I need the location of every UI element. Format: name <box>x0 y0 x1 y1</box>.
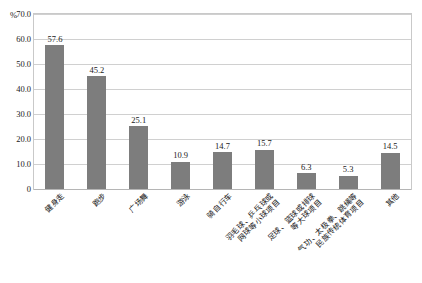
bar-group: 57.6 <box>34 14 76 189</box>
bar-value-label: 10.9 <box>173 150 188 160</box>
bar-value-label: 57.6 <box>48 34 63 44</box>
x-axis-category-label: 骑自行车 <box>205 191 234 220</box>
bar-value-label: 14.5 <box>383 141 398 151</box>
x-axis-category-label-line: 健身走 <box>43 191 67 215</box>
x-axis-category-label: 健身走 <box>43 191 67 215</box>
y-tick-label: 60.0 <box>0 34 31 44</box>
x-axis-category-label-line: 游泳 <box>174 191 192 209</box>
x-axis-category-label-line: 其他 <box>384 191 402 209</box>
bar[interactable] <box>381 153 400 189</box>
y-tick-label: 20.0 <box>0 134 31 144</box>
bar-group: 14.7 <box>202 14 244 189</box>
bar-value-label: 15.7 <box>257 138 272 148</box>
bar[interactable] <box>171 162 190 189</box>
x-axis-category-label-line: 骑自行车 <box>205 191 234 220</box>
x-axis-category-label-line: 广场舞 <box>127 191 151 215</box>
bar-group: 45.2 <box>76 14 118 189</box>
y-tick-label: 50.0 <box>0 59 31 69</box>
x-axis-category-label: 游泳 <box>174 191 192 209</box>
bar-value-label: 25.1 <box>131 115 146 125</box>
bar-group: 14.5 <box>369 14 411 189</box>
x-axis-category-label: 其他 <box>384 191 402 209</box>
bar-value-label: 5.3 <box>343 164 354 174</box>
bar-group: 6.3 <box>285 14 327 189</box>
x-axis-category-label: 跑步 <box>91 191 109 209</box>
x-axis-category-labels: 健身走跑步广场舞游泳骑自行车羽毛球、乒乓球或网球等小球项目足球、篮球或排球等大球… <box>34 191 411 283</box>
bar[interactable] <box>45 45 64 189</box>
y-tick-label: 10.0 <box>0 159 31 169</box>
bar[interactable] <box>339 176 358 189</box>
x-axis-category-label: 广场舞 <box>127 191 151 215</box>
bar-value-label: 6.3 <box>301 162 312 172</box>
bar-group: 10.9 <box>160 14 202 189</box>
y-axis: 70.0 60.0 50.0 40.0 30.0 20.0 10.0 0 <box>0 13 31 190</box>
bar-value-label: 45.2 <box>89 65 104 75</box>
bar-chart: % 70.0 60.0 50.0 40.0 30.0 20.0 10.0 0 5… <box>0 0 422 283</box>
bar-group: 5.3 <box>327 14 369 189</box>
bar[interactable] <box>213 152 232 189</box>
bar[interactable] <box>129 126 148 189</box>
y-tick-label: 30.0 <box>0 109 31 119</box>
bar-group: 15.7 <box>243 14 285 189</box>
bar[interactable] <box>87 76 106 189</box>
bar-group: 25.1 <box>118 14 160 189</box>
y-tick-label: 0 <box>0 184 31 194</box>
bar-value-label: 14.7 <box>215 141 230 151</box>
y-tick-label: 70.0 <box>0 9 31 19</box>
bar[interactable] <box>297 173 316 189</box>
x-axis-category-label-line: 跑步 <box>91 191 109 209</box>
y-tick-label: 40.0 <box>0 84 31 94</box>
bar[interactable] <box>255 150 274 189</box>
bars-container: 57.6 45.2 25.1 10.9 14.7 15.7 6.3 5.3 <box>34 14 411 189</box>
